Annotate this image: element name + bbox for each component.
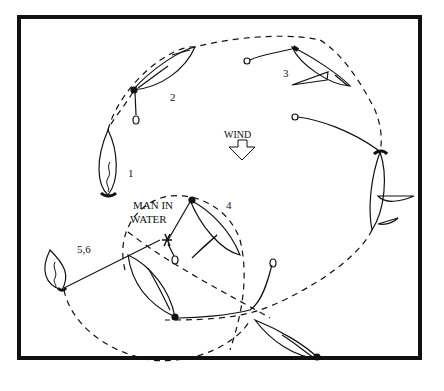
man-in-water-label-line1: MAN IN — [133, 200, 173, 211]
wind-label: WIND — [224, 129, 251, 140]
position-label-2: 2 — [170, 92, 176, 103]
boat-position-5-6 — [45, 250, 66, 290]
diagram-canvas: 2 1 3 4 5,6 WIND MAN IN WATER — [0, 0, 444, 391]
position-label-3: 3 — [283, 68, 289, 79]
boat-position-right — [292, 114, 414, 230]
boat-position-1 — [99, 130, 116, 196]
position-label-4: 4 — [226, 200, 232, 211]
boat-position-bottom-right — [255, 320, 320, 360]
frame-border — [19, 17, 420, 358]
boat-position-pickup — [128, 255, 276, 320]
man-in-water-label-line2: WATER — [130, 214, 167, 225]
diagram-drawing — [0, 0, 444, 391]
boat-position-3 — [244, 47, 350, 86]
position-label-1: 1 — [128, 168, 134, 179]
wind-arrow-icon — [229, 140, 255, 160]
position-label-5-6: 5,6 — [77, 244, 91, 255]
